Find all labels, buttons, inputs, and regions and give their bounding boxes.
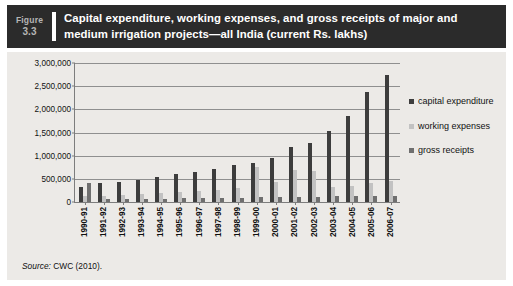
bar (106, 199, 110, 202)
y-axis-tick-label: 1,000,000 (35, 151, 71, 160)
bar-group (190, 63, 209, 202)
x-axis-tick-mark (238, 202, 239, 205)
x-axis-tick-mark (180, 202, 181, 205)
legend-label: capital expenditure (418, 96, 494, 108)
legend-item: gross receipts (409, 145, 501, 157)
x-axis-label-cell: 2004-05 (342, 207, 361, 259)
x-axis-label-cell: 1991-92 (93, 207, 112, 259)
bar (182, 198, 186, 202)
x-axis-label: 2003-04 (328, 207, 337, 237)
figure-tag-number: 3.3 (23, 26, 37, 39)
chart-legend: capital expenditureworking expensesgross… (409, 96, 501, 170)
legend-swatch (409, 148, 414, 153)
x-axis-label-cell: 1992-93 (112, 207, 131, 259)
x-axis-label: 1994-95 (156, 207, 165, 237)
bars-layer (75, 63, 400, 202)
bar-group (266, 63, 285, 202)
figure-container: Figure 3.3 Capital expenditure, working … (0, 0, 513, 286)
figure-header: Figure 3.3 Capital expenditure, working … (7, 5, 506, 48)
legend-swatch (409, 99, 414, 104)
bar-group (362, 63, 381, 202)
bar-group (228, 63, 247, 202)
x-axis-label-cell: 1995-96 (170, 207, 189, 259)
x-axis-tick-mark (104, 202, 105, 205)
x-axis-tick-mark (123, 202, 124, 205)
x-axis-label-cell: 2001-02 (285, 207, 304, 259)
x-axis-tick-mark (161, 202, 162, 205)
x-axis-label-cell: 2002-03 (304, 207, 323, 259)
x-axis-label: 1998-99 (232, 207, 241, 237)
x-axis-label: 1999-00 (252, 207, 261, 237)
x-axis-tick-mark (391, 202, 392, 205)
bar (393, 196, 397, 202)
x-axis-label-cell: 1994-95 (151, 207, 170, 259)
y-axis-tick-label: 500,000 (41, 174, 71, 183)
bar (335, 196, 339, 202)
bar-group (171, 63, 190, 202)
x-axis-label-cell: 1996-97 (189, 207, 208, 259)
legend-label: working expenses (418, 121, 490, 133)
x-axis-label: 2005-06 (367, 207, 376, 237)
bar (297, 197, 301, 202)
bar-group (75, 63, 94, 202)
bar-group (381, 63, 400, 202)
bar (278, 197, 282, 202)
x-axis-label: 1997-98 (213, 207, 222, 237)
x-axis-label-cell: 2003-04 (323, 207, 342, 259)
legend-label: gross receipts (418, 145, 474, 157)
x-axis-tick-mark (295, 202, 296, 205)
figure-title: Capital expenditure, working expenses, a… (64, 5, 506, 48)
bar-group (132, 63, 151, 202)
bar (201, 198, 205, 202)
bar-group (152, 63, 171, 202)
bar-group (305, 63, 324, 202)
figure-tag: Figure 3.3 (7, 5, 52, 48)
x-axis-label: 2004-05 (347, 207, 356, 237)
legend-item: working expenses (409, 121, 501, 133)
bar (259, 197, 263, 202)
x-axis-label: 1995-96 (175, 207, 184, 237)
x-axis-label-cell: 1997-98 (208, 207, 227, 259)
x-axis-label: 2001-02 (290, 207, 299, 237)
chart-panel: 0500,0001,000,0001,500,0002,000,0002,500… (7, 52, 506, 280)
x-axis-label-cell: 1998-99 (227, 207, 246, 259)
x-axis-tick-mark (276, 202, 277, 205)
x-axis-label-cell: 1993-94 (132, 207, 151, 259)
x-axis-tick-mark (218, 202, 219, 205)
x-axis-label: 1992-93 (117, 207, 126, 237)
bar (220, 198, 224, 202)
figure-tag-word: Figure (16, 15, 43, 26)
x-axis-label-cell: 2006-07 (381, 207, 400, 259)
bar (373, 196, 377, 202)
bar-group (113, 63, 132, 202)
y-axis-tick-label: 1,500,000 (35, 128, 71, 137)
x-axis-label: 1990-91 (79, 207, 88, 237)
bar-group (343, 63, 362, 202)
x-axis-label: 1991-92 (98, 207, 107, 237)
x-axis-tick-mark (333, 202, 334, 205)
y-axis-tick-label: 3,000,000 (35, 59, 71, 68)
legend-swatch (409, 124, 414, 129)
x-axis-label-cell: 1990-91 (74, 207, 93, 259)
x-axis-label: 2006-07 (386, 207, 395, 237)
x-axis-tick-mark (352, 202, 353, 205)
y-axis-tick-label: 2,500,000 (35, 82, 71, 91)
plot-area: 0500,0001,000,0001,500,0002,000,0002,500… (74, 63, 400, 203)
bar (144, 199, 148, 202)
x-axis-label: 1993-94 (137, 207, 146, 237)
bar (316, 197, 320, 202)
x-axis-label-cell: 1999-00 (247, 207, 266, 259)
y-axis-tick-label: 2,000,000 (35, 105, 71, 114)
x-axis-label: 2000-01 (271, 207, 280, 237)
bar-group (209, 63, 228, 202)
source-prefix: Source: (22, 261, 51, 271)
x-axis-tick-mark (85, 202, 86, 205)
source-note: Source: CWC (2010). (22, 261, 102, 271)
plot-wrapper: 0500,0001,000,0001,500,0002,000,0002,500… (74, 63, 400, 203)
bar (125, 199, 129, 202)
x-axis-tick-mark (142, 202, 143, 205)
legend-item: capital expenditure (409, 96, 501, 108)
header-divider-rule (52, 12, 56, 41)
x-axis-label: 2002-03 (309, 207, 318, 237)
bar-group (324, 63, 343, 202)
